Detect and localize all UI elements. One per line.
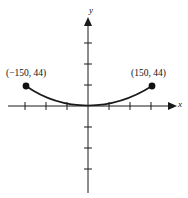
- graph-figure: y x (−150, 44) (150, 44): [0, 0, 188, 198]
- left-point-label: (−150, 44): [6, 69, 46, 79]
- y-axis-label: y: [89, 6, 93, 15]
- right-point-label: (150, 44): [131, 69, 166, 79]
- y-axis-arrowhead: [84, 17, 92, 26]
- x-axis-label: x: [178, 100, 182, 109]
- coordinate-plot: [0, 0, 188, 198]
- x-axis-arrowhead: [168, 102, 177, 110]
- left-endpoint-dot: [23, 83, 30, 90]
- right-endpoint-dot: [149, 83, 156, 90]
- cable-curve: [26, 86, 152, 106]
